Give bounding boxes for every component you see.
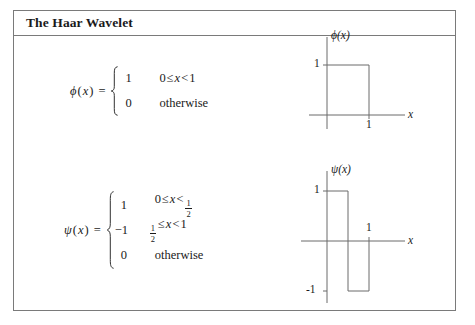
- scaling-function-cases: 1 0≤x<1 0 otherwise: [119, 66, 208, 116]
- equals-sign: =: [90, 223, 104, 238]
- case-row: 0 otherwise: [115, 243, 204, 268]
- case-condition: 12≤x<1: [141, 217, 187, 244]
- left-brace-icon: [106, 191, 115, 269]
- case-value: 0: [115, 248, 147, 263]
- psi-symbol: ψ: [64, 223, 72, 238]
- relation-leq: ≤: [166, 71, 175, 85]
- scaling-function-lhs: ϕ(x) =: [70, 84, 108, 99]
- figure-frame: The Haar Wavelet ϕ(x) = 1 0≤x<1 0 otherw…: [13, 10, 456, 311]
- phi-plot: ϕ(x) x 1 1: [289, 29, 419, 134]
- relation-leq: ≤: [157, 217, 166, 231]
- fraction-one-half: 12: [185, 199, 191, 218]
- figure-title: The Haar Wavelet: [26, 15, 133, 31]
- phi-plot-x-axis-label: x: [408, 108, 413, 120]
- case-value: 1: [119, 71, 151, 86]
- phi-plot-y-axis-label: ϕ(x): [331, 29, 350, 41]
- relation-leq: ≤: [161, 192, 170, 206]
- fraction-one-half: 12: [150, 224, 156, 243]
- case-row: 0 otherwise: [119, 91, 208, 116]
- case-condition-otherwise: otherwise: [147, 248, 204, 263]
- case-row: 1 0≤x<1: [119, 66, 208, 91]
- fraction-numerator: 1: [150, 224, 156, 233]
- phi-plot-x-tick-1: 1: [366, 118, 372, 130]
- condition-upper-bound: 1: [180, 217, 186, 231]
- relation-lt: <: [180, 71, 189, 85]
- wavelet-function-cases: 1 0≤x<12 −1 12≤x<1 0 otherwise: [115, 193, 204, 268]
- case-row: 1 0≤x<12: [115, 193, 204, 218]
- case-value: 0: [119, 96, 151, 111]
- fraction-numerator: 1: [185, 199, 191, 208]
- left-brace-icon: [110, 66, 119, 116]
- case-condition: 0≤x<1: [151, 71, 195, 86]
- psi-plot-y-tick-minus-1: -1: [306, 283, 316, 295]
- case-condition-otherwise: otherwise: [151, 96, 208, 111]
- case-value: 1: [115, 198, 147, 213]
- wavelet-function-lhs: ψ(x) =: [64, 223, 104, 238]
- equals-sign: =: [94, 84, 108, 99]
- psi-plot-x-axis-label: x: [408, 234, 413, 246]
- relation-lt: <: [175, 192, 184, 206]
- phi-plot-y-tick-1: 1: [314, 57, 320, 69]
- case-value: −1: [115, 223, 141, 238]
- psi-plot-x-tick-1: 1: [366, 221, 372, 233]
- scaling-function-definition: ϕ(x) = 1 0≤x<1 0 otherwise: [70, 66, 208, 116]
- psi-plot: ψ(x) x 1 -1 1: [289, 163, 419, 308]
- psi-plot-y-tick-1: 1: [314, 183, 320, 195]
- case-condition: 0≤x<12: [147, 192, 193, 219]
- condition-upper-bound: 1: [189, 71, 195, 85]
- psi-plot-y-axis-label: ψ(x): [331, 163, 351, 175]
- wavelet-function-definition: ψ(x) = 1 0≤x<12 −1 12≤x<1 0 otherwise: [64, 191, 203, 269]
- condition-lower-bound: 0: [159, 71, 165, 85]
- case-row: −1 12≤x<1: [115, 218, 204, 243]
